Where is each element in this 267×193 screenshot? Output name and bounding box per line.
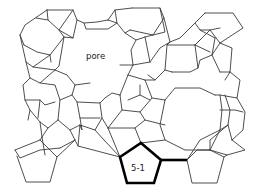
- ring-5-1-label: 5-1: [131, 163, 145, 173]
- framework-edges: [15, 8, 245, 183]
- pore-label: pore: [86, 51, 105, 61]
